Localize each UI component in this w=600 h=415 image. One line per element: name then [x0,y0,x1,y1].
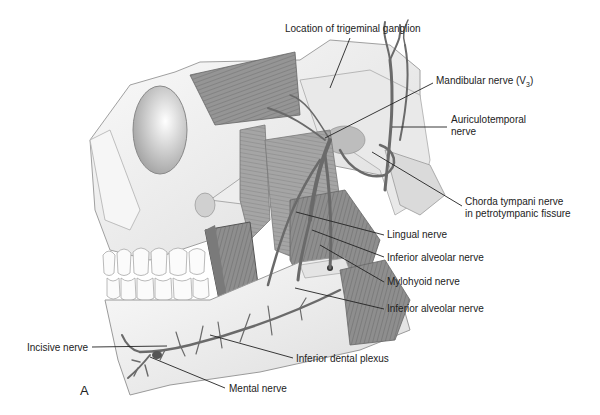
anatomical-figure: Location of trigeminal ganglion Mandibul… [0,0,600,415]
label-inferior-alveolar-nerve-lower: Inferior alveolar nerve [387,303,484,315]
label-inferior-dental-plexus: Inferior dental plexus [296,353,389,365]
label-chorda-tympani-line2: in petrotympanic fissure [465,208,571,220]
label-mandibular-nerve: Mandibular nerve (V3) [436,75,533,91]
orbit [133,86,187,174]
label-trigeminal-ganglion: Location of trigeminal ganglion [285,23,421,35]
label-mandibular-nerve-text: Mandibular nerve (V [436,75,526,86]
label-auriculotemporal-line1: Auriculotemporal [451,114,526,126]
label-chorda-tympani-line1: Chorda tympani nerve [465,196,571,208]
panel-letter: A [80,383,89,398]
label-incisive-nerve: Incisive nerve [27,342,88,354]
label-auriculotemporal-nerve: Auriculotemporal nerve [451,114,526,138]
mental-foramen [152,351,162,359]
label-lingual-nerve: Lingual nerve [387,229,447,241]
label-mandibular-nerve-close: ) [530,75,533,86]
label-auriculotemporal-line2: nerve [451,126,526,138]
label-mylohyoid-nerve: Mylohyoid nerve [387,276,460,288]
label-chorda-tympani-nerve: Chorda tympani nerve in petrotympanic fi… [465,196,571,220]
label-mental-nerve: Mental nerve [229,383,287,395]
teeth [103,248,209,301]
label-inferior-alveolar-nerve-upper: Inferior alveolar nerve [387,252,484,264]
